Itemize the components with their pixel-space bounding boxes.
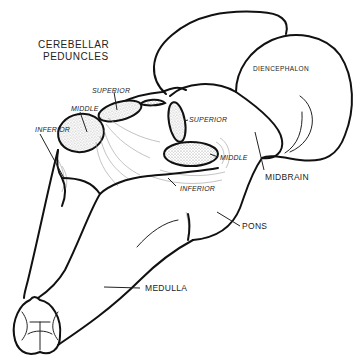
diencephalon-inner-curve-1 — [290, 96, 312, 152]
superior-peduncle-cut-right — [166, 101, 189, 143]
label-inferior-right: INFERIOR — [180, 185, 215, 192]
small-ridge — [140, 100, 165, 106]
pons-curve — [137, 220, 178, 247]
label-superior-left: SUPERIOR — [92, 87, 130, 94]
brainstem-diagram: CEREBELLAR PEDUNCLES SUPERIOR MIDDLE INF… — [0, 0, 364, 359]
middle-peduncle-cut-right — [164, 142, 218, 166]
diencephalon-upper-outline — [154, 12, 287, 94]
label-middle-left: MIDDLE — [71, 105, 99, 112]
pons-lower-curve — [188, 214, 190, 240]
medulla-inner-edge — [38, 194, 100, 298]
spinal-cord-section — [14, 297, 61, 354]
label-inferior-left: INFERIOR — [35, 126, 70, 133]
label-midbrain: MIDBRAIN — [265, 172, 309, 182]
diencephalon-outline — [236, 35, 352, 161]
label-middle-right: MIDDLE — [220, 154, 248, 161]
label-diencephalon: DIENCEPHALON — [253, 65, 309, 72]
label-pons: PONS — [242, 221, 267, 231]
title-line-1: CEREBELLAR — [38, 39, 109, 50]
superior-peduncle-cut-left — [96, 97, 143, 126]
title-line-2: PEDUNCLES — [43, 51, 109, 62]
medulla-left-edge — [24, 150, 58, 298]
label-superior-right: SUPERIOR — [189, 116, 227, 123]
label-medulla: MEDULLA — [145, 283, 187, 293]
